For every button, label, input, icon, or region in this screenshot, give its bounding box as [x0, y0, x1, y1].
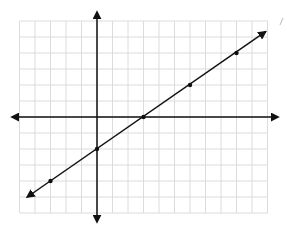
- data-point: [188, 83, 192, 87]
- coordinate-plane: [0, 0, 287, 230]
- plotted-line: [27, 32, 265, 197]
- data-point: [141, 115, 145, 119]
- data-point: [48, 179, 52, 183]
- data-point: [234, 51, 238, 55]
- stray-mark: [280, 18, 283, 25]
- line-y-equals-two-thirds-x-minus-two: [27, 32, 265, 197]
- data-point: [95, 147, 99, 151]
